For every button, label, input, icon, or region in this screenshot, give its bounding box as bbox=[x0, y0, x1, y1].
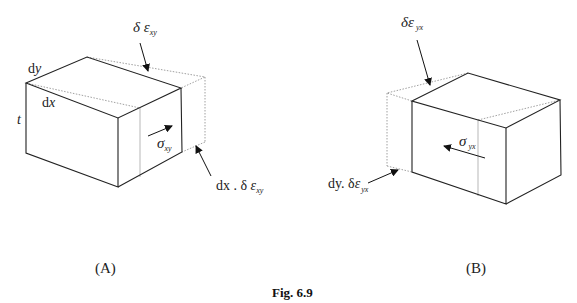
panel-a-top-annotation: δ εxy bbox=[133, 19, 157, 37]
panel-b-hidden-diagonal bbox=[478, 100, 560, 120]
panel-a-front-face bbox=[26, 83, 118, 187]
panel-a-box bbox=[26, 57, 205, 187]
panel-a-displaced-top-edge bbox=[87, 57, 205, 88]
panel-b-displaced-bottom-edge bbox=[387, 166, 412, 172]
panel-b-top-annotation: δεyx bbox=[401, 14, 423, 32]
panel-a-thickness-label: t bbox=[17, 112, 22, 127]
figure-canvas: dy dx t δ εxy σxy dx . δ εxy (A) δεyx σy… bbox=[0, 0, 577, 303]
panel-b-stress-label: σyx bbox=[459, 133, 476, 151]
panel-b-top-face bbox=[412, 73, 560, 128]
panel-b-side-face bbox=[506, 100, 561, 204]
panel-b-label: (B) bbox=[466, 260, 486, 277]
panel-a-stress-label: σxy bbox=[157, 135, 172, 153]
panel-a-side-arrow bbox=[196, 146, 211, 176]
panel-b-front-face bbox=[412, 101, 506, 204]
panel-a-dy-label: dy bbox=[28, 61, 42, 76]
panel-a-displaced-bottom-edge bbox=[182, 142, 205, 152]
panel-b-top-arrow bbox=[417, 40, 430, 85]
panel-a-dx-label: dx bbox=[42, 95, 56, 110]
panel-b-side-annotation: dy. δεyx bbox=[328, 176, 369, 194]
panel-b-side-arrow bbox=[368, 170, 398, 183]
panel-a-side-annotation: dx . δ εxy bbox=[216, 178, 264, 195]
panel-b-box bbox=[387, 73, 561, 204]
panel-a-label: (A) bbox=[95, 260, 116, 277]
figure-caption: Fig. 6.9 bbox=[272, 285, 313, 300]
